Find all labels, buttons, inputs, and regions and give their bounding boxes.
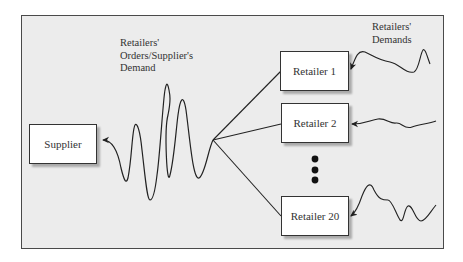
supplier-node: Supplier [29, 124, 97, 164]
more-retailers-ellipsis [312, 156, 319, 184]
hub-connectors [213, 71, 281, 216]
connector-retailer-1 [213, 71, 281, 140]
supplier-label: Supplier [44, 138, 81, 150]
supplier-demand-wave [103, 84, 213, 200]
retailer-1-node: Retailer 1 [280, 51, 349, 91]
retailer-20-node: Retailer 20 [281, 196, 349, 236]
retailer-1-label: Retailer 1 [293, 65, 336, 77]
retailer-2-label: Retailer 2 [293, 117, 336, 129]
connector-retailer-2 [213, 124, 281, 140]
retailer-20-label: Retailer 20 [291, 210, 340, 222]
retailer-2-demand-wave [352, 119, 436, 128]
connector-retailer-20 [213, 140, 281, 216]
retailer-2-node: Retailer 2 [281, 103, 349, 143]
retailer-1-demand-wave [351, 50, 430, 73]
demands-label: Retailers' Demands [372, 21, 412, 46]
orders-label: Retailers' Orders/Supplier's Demand [120, 37, 193, 75]
retailer-20-demand-wave [351, 185, 436, 221]
